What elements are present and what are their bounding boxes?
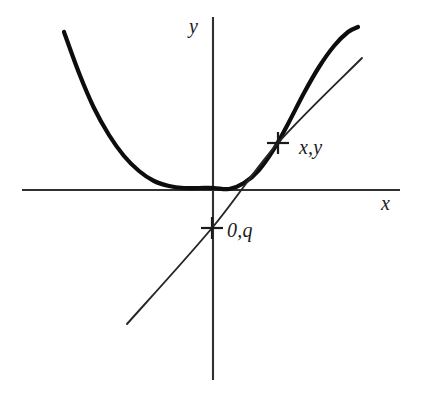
x-axis-label: x [381, 193, 390, 213]
parabola-tangent-figure: y x x,y 0,q [0, 0, 422, 398]
point-label-xy: x,y [299, 137, 322, 157]
y-axis-label: y [189, 16, 198, 36]
figure-canvas [0, 0, 422, 398]
point-label-0q: 0,q [227, 220, 253, 240]
parabola-curve [64, 27, 358, 189]
